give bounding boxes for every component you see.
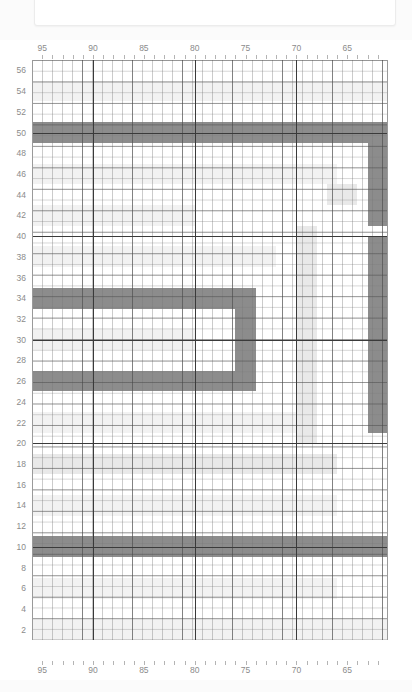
x-tick-mark [83,661,84,665]
x-tick-mark [164,661,165,665]
plot-wrapper: 95908580757065 95908580757065 5654525048… [32,60,388,640]
x-tick-mark [134,661,135,665]
x-tick-label-90: 90 [88,44,97,53]
band-y42-left [32,205,195,226]
x-tick-label-65: 65 [343,666,352,675]
x-tick-mark [144,55,145,59]
y-tick-label-12: 12 [17,522,26,531]
x-tick-mark [144,661,145,665]
x-tick-mark [103,55,104,59]
major-hline-50 [32,133,388,134]
major-hline-30 [32,340,388,341]
band-y46-left [32,164,337,185]
band-y14-left [32,495,337,516]
y-tick-label-38: 38 [17,253,26,262]
x-tick-mark [52,661,53,665]
x-tick-mark [235,661,236,665]
x-tick-mark [52,55,53,59]
y-tick-label-34: 34 [17,294,26,303]
band-y26-left [32,371,246,392]
y-tick-label-40: 40 [17,232,26,241]
x-tick-label-75: 75 [241,666,250,675]
band-y22-left [32,412,296,433]
y-tick-label-50: 50 [17,128,26,137]
major-hline-20 [32,443,388,444]
x-tick-mark [286,55,287,59]
x-tick-mark [124,661,125,665]
x-tick-mark [266,55,267,59]
band-y34-left [32,288,246,309]
x-tick-mark [378,55,379,59]
chart-figure: 95908580757065 95908580757065 5654525048… [0,40,412,680]
x-tick-mark [154,55,155,59]
y-tick-label-16: 16 [17,480,26,489]
x-tick-mark [368,55,369,59]
band-y54-left [32,81,388,102]
y-tick-label-20: 20 [17,439,26,448]
x-tick-label-65: 65 [343,44,352,53]
x-tick-mark [185,661,186,665]
wall-x63-right-lower [368,236,388,433]
x-tick-mark [296,661,297,665]
y-tick-label-28: 28 [17,356,26,365]
x-tick-mark [215,55,216,59]
band-y38-left [32,246,276,267]
x-tick-mark [42,661,43,665]
y-tick-label-46: 46 [17,170,26,179]
y-axis-left: 5654525048464442403836343230282624222018… [6,60,28,640]
x-tick-mark [286,661,287,665]
x-tick-mark [235,55,236,59]
x-tick-mark [317,661,318,665]
y-tick-label-24: 24 [17,398,26,407]
x-tick-mark [113,55,114,59]
x-tick-mark [164,55,165,59]
x-tick-label-75: 75 [241,44,250,53]
y-tick-label-6: 6 [21,584,26,593]
y-tick-label-30: 30 [17,335,26,344]
x-tick-mark [134,55,135,59]
x-tick-label-85: 85 [139,44,148,53]
x-tick-mark [185,55,186,59]
x-tick-mark [225,661,226,665]
x-tick-mark [124,55,125,59]
x-tick-mark [63,661,64,665]
y-tick-label-42: 42 [17,211,26,220]
y-tick-label-10: 10 [17,543,26,552]
band-y18-left [32,454,337,475]
x-tick-mark [256,661,257,665]
x-tick-mark [174,661,175,665]
x-tick-mark [103,661,104,665]
major-hline-40 [32,236,388,237]
x-tick-mark [317,55,318,59]
x-tick-mark [347,661,348,665]
x-tick-mark [357,661,358,665]
x-tick-mark [83,55,84,59]
x-tick-mark [276,661,277,665]
x-tick-mark [93,661,94,665]
wall-x63-right-upper [368,143,388,226]
y-tick-label-44: 44 [17,190,26,199]
x-tick-mark [378,661,379,665]
y-tick-label-2: 2 [21,625,26,634]
x-tick-mark [327,55,328,59]
wall-x69-vertical [296,226,316,444]
x-tick-mark [368,661,369,665]
x-tick-label-95: 95 [37,666,46,675]
x-tick-mark [73,55,74,59]
x-tick-mark [296,55,297,59]
major-vline-90 [93,60,94,640]
y-tick-label-26: 26 [17,377,26,386]
x-tick-mark [246,55,247,59]
patch-y2-bottom [32,619,388,640]
x-tick-mark [154,661,155,665]
x-tick-mark [205,55,206,59]
x-tick-mark [42,55,43,59]
x-tick-mark [327,661,328,665]
x-tick-mark [307,55,308,59]
y-tick-label-22: 22 [17,418,26,427]
x-tick-mark [215,661,216,665]
y-tick-label-52: 52 [17,108,26,117]
major-vline-70 [296,60,297,640]
heatmap-plot[interactable] [32,60,388,640]
x-tick-mark [276,55,277,59]
